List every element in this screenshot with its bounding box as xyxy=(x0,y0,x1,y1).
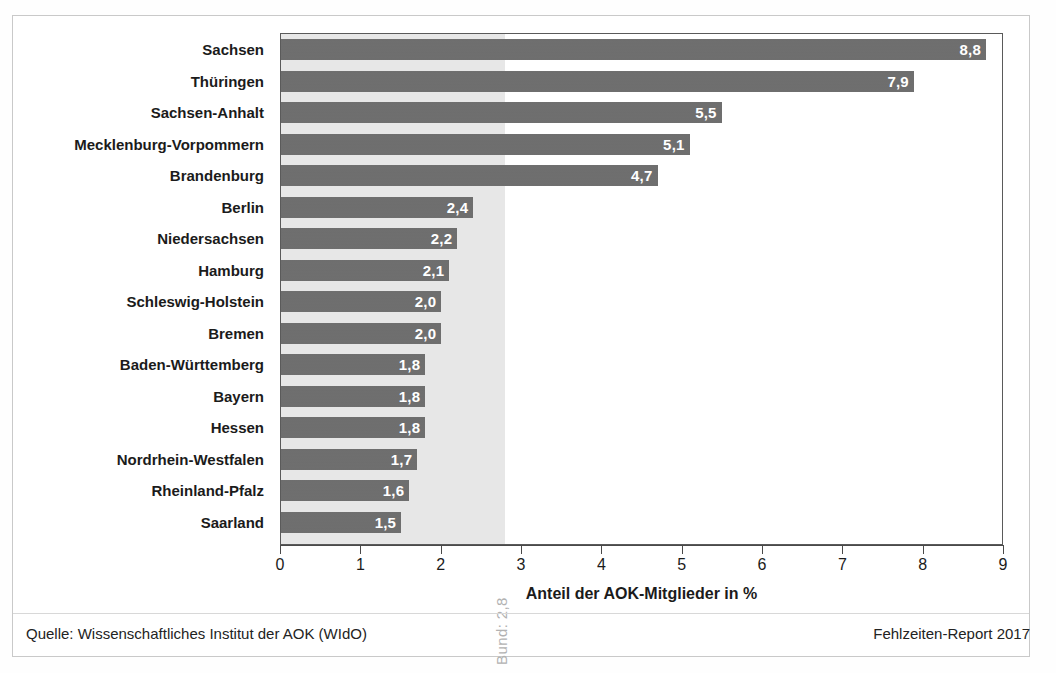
bar-value-label: 5,5 xyxy=(695,105,716,120)
bar-value-label: 1,5 xyxy=(375,515,396,530)
category-label: Berlin xyxy=(0,192,272,224)
bar-row: 2,4 xyxy=(281,192,1002,224)
x-axis-tick-label: 9 xyxy=(983,556,1023,574)
bar: 2,2 xyxy=(281,228,457,249)
footer-report-text: Fehlzeiten-Report 2017 xyxy=(873,625,1030,642)
bar: 1,8 xyxy=(281,417,425,438)
x-axis-tick-label: 7 xyxy=(822,556,862,574)
bar: 5,1 xyxy=(281,134,690,155)
category-label: Sachsen-Anhalt xyxy=(0,97,272,129)
bar: 1,8 xyxy=(281,386,425,407)
bar-row: 1,8 xyxy=(281,412,1002,444)
category-label: Bayern xyxy=(0,381,272,413)
x-axis: 0123456789 xyxy=(280,545,1003,546)
bar-row: 2,1 xyxy=(281,255,1002,287)
bar-row: 1,7 xyxy=(281,444,1002,476)
category-label: Niedersachsen xyxy=(0,223,272,255)
bar: 2,0 xyxy=(281,323,441,344)
category-axis-labels: SachsenThüringenSachsen-AnhaltMecklenbur… xyxy=(0,34,272,544)
x-axis-tick xyxy=(280,545,281,554)
x-axis-tick xyxy=(762,545,763,554)
footer-source-text: Quelle: Wissenschaftliches Institut der … xyxy=(26,625,367,642)
x-axis-tick xyxy=(521,545,522,554)
bar-row: 5,1 xyxy=(281,129,1002,161)
bar-value-label: 1,8 xyxy=(399,389,420,404)
bar-value-label: 1,8 xyxy=(399,357,420,372)
bar-row: 2,0 xyxy=(281,286,1002,318)
bar-row: 1,8 xyxy=(281,381,1002,413)
category-label: Sachsen xyxy=(0,34,272,66)
bar-value-label: 4,7 xyxy=(631,168,652,183)
bar-value-label: 5,1 xyxy=(663,137,684,152)
bar: 1,8 xyxy=(281,354,425,375)
bar: 1,6 xyxy=(281,480,409,501)
bar: 2,1 xyxy=(281,260,449,281)
bar-value-label: 2,0 xyxy=(415,326,436,341)
category-label: Hessen xyxy=(0,412,272,444)
x-axis-title: Anteil der AOK-Mitglieder in % xyxy=(280,585,1003,603)
category-label: Schleswig-Holstein xyxy=(0,286,272,318)
footer-divider xyxy=(13,613,1029,614)
category-label: Saarland xyxy=(0,507,272,539)
bar-row: 2,2 xyxy=(281,223,1002,255)
chart-page: Bund: 2,8 SachsenThüringenSachsen-Anhalt… xyxy=(0,0,1056,673)
category-label: Bremen xyxy=(0,318,272,350)
bar: 7,9 xyxy=(281,71,914,92)
x-axis-tick xyxy=(923,545,924,554)
bar-value-label: 2,1 xyxy=(423,263,444,278)
x-axis-tick xyxy=(441,545,442,554)
x-axis-tick xyxy=(601,545,602,554)
category-label: Brandenburg xyxy=(0,160,272,192)
bar-series: 8,87,95,55,14,72,42,22,12,02,01,81,81,81… xyxy=(281,34,1002,544)
bar-row: 7,9 xyxy=(281,66,1002,98)
bar-value-label: 1,8 xyxy=(399,420,420,435)
category-label: Hamburg xyxy=(0,255,272,287)
bar: 2,4 xyxy=(281,197,473,218)
x-axis-tick xyxy=(682,545,683,554)
bar-value-label: 1,7 xyxy=(391,452,412,467)
bar-value-label: 7,9 xyxy=(887,74,908,89)
category-label: Rheinland-Pfalz xyxy=(0,475,272,507)
x-axis-tick xyxy=(360,545,361,554)
x-axis-tick-label: 1 xyxy=(340,556,380,574)
x-axis-tick-label: 6 xyxy=(742,556,782,574)
bar: 8,8 xyxy=(281,39,986,60)
bar: 1,7 xyxy=(281,449,417,470)
bar-row: 2,0 xyxy=(281,318,1002,350)
bar-row: 4,7 xyxy=(281,160,1002,192)
bar-row: 1,6 xyxy=(281,475,1002,507)
x-axis-tick xyxy=(842,545,843,554)
bar-row: 1,8 xyxy=(281,349,1002,381)
bar: 5,5 xyxy=(281,102,722,123)
category-label: Thüringen xyxy=(0,66,272,98)
x-axis-tick xyxy=(1003,545,1004,554)
bar-row: 8,8 xyxy=(281,34,1002,66)
bar-value-label: 8,8 xyxy=(960,42,981,57)
x-axis-tick-label: 4 xyxy=(581,556,621,574)
bar-value-label: 1,6 xyxy=(383,483,404,498)
x-axis-tick-label: 5 xyxy=(662,556,702,574)
bar-row: 1,5 xyxy=(281,507,1002,539)
bar-value-label: 2,0 xyxy=(415,294,436,309)
x-axis-tick-label: 2 xyxy=(421,556,461,574)
x-axis-tick-label: 3 xyxy=(501,556,541,574)
category-label: Nordrhein-Westfalen xyxy=(0,444,272,476)
bar-value-label: 2,4 xyxy=(447,200,468,215)
bar: 4,7 xyxy=(281,165,658,186)
category-label: Mecklenburg-Vorpommern xyxy=(0,129,272,161)
x-axis-tick-label: 0 xyxy=(260,556,300,574)
category-label: Baden-Württemberg xyxy=(0,349,272,381)
x-axis-tick-label: 8 xyxy=(903,556,943,574)
bar-row: 5,5 xyxy=(281,97,1002,129)
bund-reference-label: Bund: 2,8 xyxy=(493,597,510,665)
bar-value-label: 2,2 xyxy=(431,231,452,246)
bar: 2,0 xyxy=(281,291,441,312)
bar: 1,5 xyxy=(281,512,401,533)
